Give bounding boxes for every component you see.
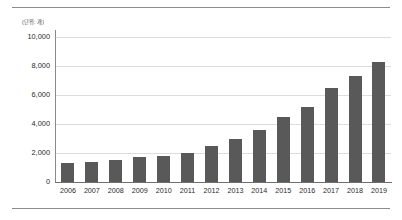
x-slot-2018: 2018 — [343, 186, 367, 195]
bar-2018 — [349, 76, 362, 182]
x-slot-2016: 2016 — [295, 186, 319, 195]
x-tick-label-2016: 2016 — [295, 186, 319, 195]
bar-2008 — [109, 160, 122, 182]
x-slot-2009: 2009 — [128, 186, 152, 195]
bar-slot-2007 — [80, 37, 104, 182]
x-slot-2019: 2019 — [367, 186, 391, 195]
x-slot-2008: 2008 — [104, 186, 128, 195]
x-tick-label-2006: 2006 — [56, 186, 80, 195]
bar-slot-2018 — [343, 37, 367, 182]
x-tick-label-2008: 2008 — [104, 186, 128, 195]
x-tick-label-2012: 2012 — [200, 186, 224, 195]
y-tick-label-0: 0 — [4, 178, 50, 186]
bar-2015 — [277, 117, 290, 182]
x-slot-2006: 2006 — [56, 186, 80, 195]
x-slot-2014: 2014 — [247, 186, 271, 195]
bar-slot-2009 — [128, 37, 152, 182]
bar-2012 — [205, 146, 218, 182]
x-slot-2015: 2015 — [271, 186, 295, 195]
y-tick-label-10000: 10,000 — [4, 33, 50, 41]
bar-series — [56, 37, 391, 182]
x-tick-label-2013: 2013 — [223, 186, 247, 195]
bottom-divider-rule — [12, 208, 390, 209]
bar-slot-2013 — [223, 37, 247, 182]
x-slot-2010: 2010 — [152, 186, 176, 195]
x-tick-label-2009: 2009 — [128, 186, 152, 195]
bar-2010 — [157, 156, 170, 182]
y-tick-label-6000: 6,000 — [4, 91, 50, 99]
bar-slot-2012 — [200, 37, 224, 182]
x-tick-label-2015: 2015 — [271, 186, 295, 195]
y-tick-label-2000: 2,000 — [4, 149, 50, 157]
x-tick-label-2007: 2007 — [80, 186, 104, 195]
bar-2006 — [61, 163, 74, 182]
bar-slot-2010 — [152, 37, 176, 182]
bar-2016 — [301, 107, 314, 182]
x-tick-label-2017: 2017 — [319, 186, 343, 195]
x-tick-label-2011: 2011 — [176, 186, 200, 195]
x-slot-2007: 2007 — [80, 186, 104, 195]
y-axis-tick-labels: 10,0008,0006,0004,0002,0000 — [0, 0, 50, 220]
y-tick-label-8000: 8,000 — [4, 62, 50, 70]
bar-2007 — [85, 162, 98, 182]
bar-2019 — [372, 62, 385, 182]
bar-2017 — [325, 88, 338, 182]
x-tick-label-2018: 2018 — [343, 186, 367, 195]
bar-slot-2015 — [271, 37, 295, 182]
bar-slot-2011 — [176, 37, 200, 182]
bar-slot-2008 — [104, 37, 128, 182]
x-axis-line — [55, 182, 392, 183]
top-divider-rule — [12, 7, 390, 8]
x-slot-2011: 2011 — [176, 186, 200, 195]
x-axis-tick-labels: 2006200720082009201020112012201320142015… — [56, 186, 391, 195]
bar-slot-2016 — [295, 37, 319, 182]
bar-slot-2006 — [56, 37, 80, 182]
x-slot-2012: 2012 — [200, 186, 224, 195]
x-slot-2013: 2013 — [223, 186, 247, 195]
bar-slot-2014 — [247, 37, 271, 182]
bar-slot-2019 — [367, 37, 391, 182]
x-tick-label-2019: 2019 — [367, 186, 391, 195]
x-tick-label-2014: 2014 — [247, 186, 271, 195]
bar-chart-figure: (단위: 개) 10,0008,0006,0004,0002,0000 2006… — [0, 0, 402, 220]
x-tick-label-2010: 2010 — [152, 186, 176, 195]
y-tick-label-4000: 4,000 — [4, 120, 50, 128]
bar-2011 — [181, 153, 194, 182]
bar-2013 — [229, 139, 242, 183]
x-slot-2017: 2017 — [319, 186, 343, 195]
bar-2009 — [133, 157, 146, 182]
bar-slot-2017 — [319, 37, 343, 182]
bar-2014 — [253, 130, 266, 182]
